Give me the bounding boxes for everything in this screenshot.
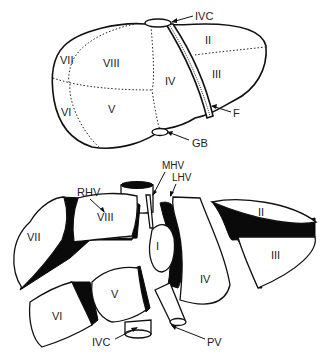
segment-label-vi: VI (61, 106, 71, 118)
segment-label-viii-exploded: VIII (97, 211, 114, 223)
top-view: VII VIII VI V IV II III IVC F GB (52, 10, 266, 149)
segment-label-ii-exploded: II (258, 206, 264, 218)
ivc-lower-rim (125, 330, 151, 338)
segment-label-iii-exploded: III (271, 249, 280, 261)
segment-label-i: I (156, 240, 159, 252)
segment-label-iv-exploded: IV (200, 273, 211, 285)
portal-vein-rim (170, 319, 186, 326)
exploded-view: VII VIII IV I II III VI V (14, 160, 316, 348)
callout-ivc: IVC (195, 10, 213, 22)
callout-f: F (233, 107, 240, 119)
callout-mhv: MHV (162, 160, 185, 171)
segment-v (92, 268, 146, 322)
callout-gb: GB (192, 137, 208, 149)
segment-label-ii: II (205, 34, 211, 46)
callout-lhv: LHV (172, 172, 192, 183)
segment-label-iii: III (212, 68, 221, 80)
callout-ivc-exploded: IVC (92, 336, 110, 348)
segment-label-vii: VII (60, 54, 73, 66)
ivc-top (145, 19, 171, 27)
segment-label-v-exploded: V (111, 288, 119, 300)
segment-label-iv: IV (165, 75, 176, 87)
pv-arrow (172, 326, 205, 339)
segment-label-vii-exploded: VII (27, 231, 40, 243)
ivc-upper-rim (121, 182, 153, 189)
arrowhead-icon (171, 18, 177, 23)
segment-iii (238, 237, 315, 288)
liver-segments-diagram: VII VIII VI V IV II III IVC F GB VII VII… (0, 0, 325, 355)
segment-label-vi-exploded: VI (52, 310, 62, 322)
segment-label-v: V (108, 103, 116, 115)
segment-i (150, 225, 175, 272)
arrowhead-icon (170, 191, 174, 197)
callout-rhv: RHV (77, 186, 101, 198)
gallbladder (152, 129, 168, 136)
segment-label-viii: VIII (103, 57, 120, 69)
callout-pv: PV (207, 336, 222, 348)
